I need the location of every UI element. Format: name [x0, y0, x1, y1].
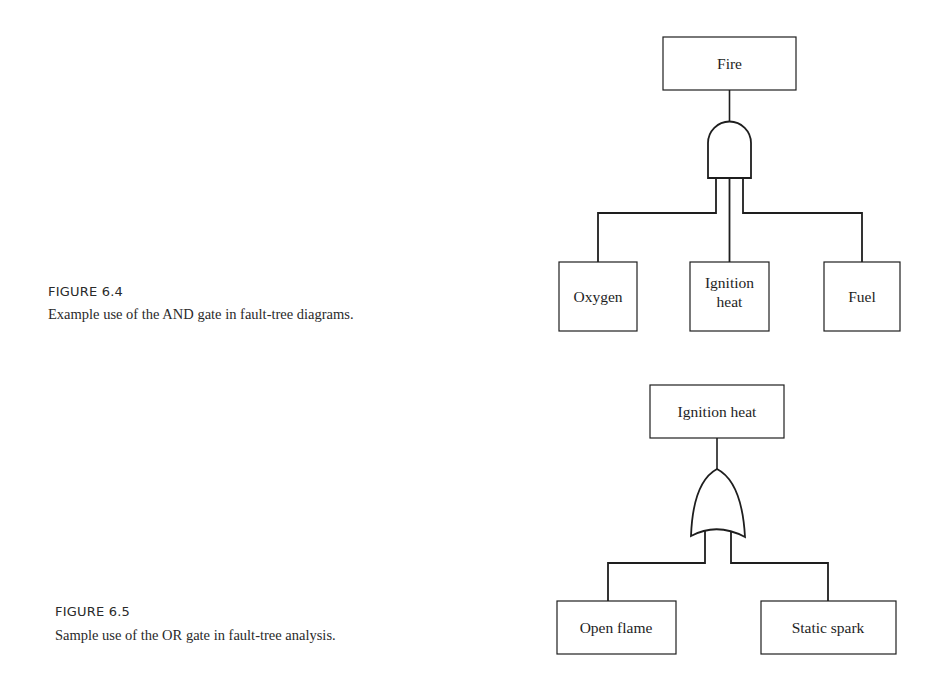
input-label-fuel: Fuel	[848, 288, 876, 305]
input-label-ignition-line1: Ignition	[705, 274, 754, 291]
top-event-label: Fire	[717, 55, 742, 72]
input-label-oxygen: Oxygen	[573, 288, 622, 305]
connector-line-open-flame	[608, 531, 705, 601]
fault-tree-diagrams: Fire Oxygen Ignition heat Fuel Ignition …	[0, 0, 926, 681]
top-event-label: Ignition heat	[678, 403, 757, 420]
connector-line-oxygen	[598, 178, 716, 262]
or-fault-tree	[557, 385, 896, 654]
connector-line-fuel	[743, 178, 862, 262]
and-gate-icon	[708, 122, 751, 179]
input-label-open-flame: Open flame	[580, 619, 653, 636]
connector-line-static-spark	[731, 531, 828, 601]
input-label-static-spark: Static spark	[792, 619, 865, 636]
input-label-ignition-line2: heat	[717, 293, 744, 310]
or-gate-icon	[691, 469, 745, 537]
